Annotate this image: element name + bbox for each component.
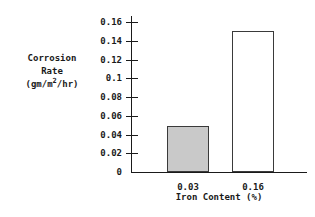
y-tick-mark bbox=[126, 153, 138, 154]
y-tick-label: 0.1 bbox=[106, 73, 122, 83]
y-tick-label: 0.08 bbox=[100, 92, 122, 102]
y-tick-mark bbox=[126, 97, 138, 98]
y-tick-label: 0.04 bbox=[100, 130, 122, 140]
y-tick-mark bbox=[126, 22, 138, 23]
y-axis-units-suffix: /hr) bbox=[57, 79, 79, 89]
plot-area: 0.160.140.120.10.080.060.040.020 0.030.1… bbox=[131, 22, 307, 172]
x-tick-label-0.16: 0.16 bbox=[242, 182, 264, 192]
x-axis-line bbox=[131, 172, 307, 173]
y-tick-mark bbox=[126, 135, 138, 136]
x-axis-title: Iron Content (%) bbox=[131, 192, 307, 202]
y-tick-label: 0.06 bbox=[100, 111, 122, 121]
bar-0.03 bbox=[167, 126, 209, 172]
y-axis-units-prefix: (gm/m bbox=[26, 79, 53, 89]
y-tick-mark bbox=[126, 41, 138, 42]
y-tick-label: 0.14 bbox=[100, 36, 122, 46]
y-tick-mark bbox=[126, 116, 138, 117]
y-axis-title: Corrosion Rate (gm/m2/hr) bbox=[8, 52, 96, 91]
y-tick-label: 0 bbox=[117, 167, 122, 177]
y-axis-title-units: (gm/m2/hr) bbox=[8, 78, 96, 91]
y-tick-mark bbox=[126, 78, 138, 79]
y-axis-title-line-1: Corrosion bbox=[8, 52, 96, 65]
y-tick-label: 0.02 bbox=[100, 148, 122, 158]
bar-0.16 bbox=[232, 31, 274, 172]
y-tick-label: 0.16 bbox=[100, 17, 122, 27]
y-axis-line bbox=[131, 16, 132, 173]
y-tick-label: 0.12 bbox=[100, 55, 122, 65]
x-tick-label-0.03: 0.03 bbox=[177, 182, 199, 192]
y-tick-mark bbox=[126, 60, 138, 61]
bar-chart-figure: Corrosion Rate (gm/m2/hr) 0.160.140.120.… bbox=[0, 0, 315, 217]
